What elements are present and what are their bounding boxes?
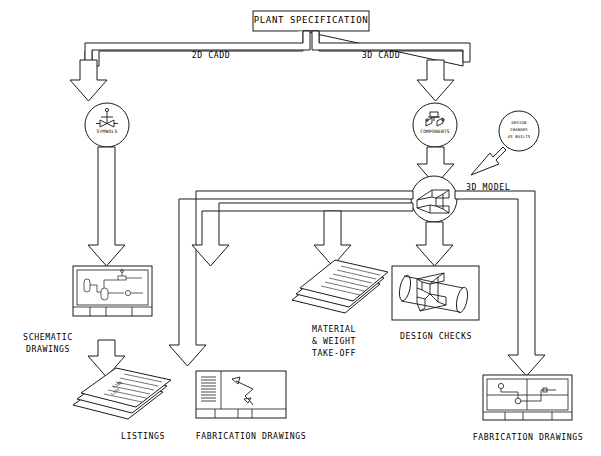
branch-label-3d: 3D CADD: [362, 50, 401, 61]
diagram-canvas: [0, 0, 601, 456]
branch-label-2d: 2D CADD: [192, 50, 231, 61]
output-label-fabrication-right: FABRICATION DRAWINGS: [473, 432, 584, 443]
cadd-workflow-diagram: PLANT SPECIFICATION 2D CADD 3D CADD SYMB…: [0, 0, 601, 456]
output-label-listings: LISTINGS: [121, 431, 165, 442]
output-label-takeoff-l1: MATERIAL: [312, 324, 356, 335]
fabrication-left-sheet: [196, 371, 286, 418]
output-label-fabrication-left: FABRICATION DRAWINGS: [196, 431, 307, 442]
output-label-takeoff-l3: TAKE-OFF: [312, 348, 356, 359]
listings-sheet-stack: [73, 368, 171, 419]
components-circle: [413, 103, 457, 147]
bus-branch-takeoff: [192, 203, 413, 266]
page-title: PLANT SPECIFICATION: [254, 15, 368, 27]
design-changes-line1: DESIGN: [512, 121, 527, 126]
node-label-components: COMPONENTS: [420, 129, 450, 135]
arrow-to-symbols: [70, 60, 107, 101]
symbols-circle: [85, 103, 129, 147]
design-changes-line2: CHANGES: [510, 128, 527, 133]
output-label-schematic-l2: DRAWINGS: [26, 344, 70, 355]
node-label-3d-model: 3D MODEL: [466, 182, 510, 193]
design-changes-line3: AS BUILTS: [508, 135, 530, 140]
arrow-to-design-checks: [416, 222, 453, 266]
output-label-design-checks: DESIGN CHECKS: [400, 331, 472, 342]
arrow-to-takeoff: [314, 211, 351, 266]
arrow-design-changes-to-model: [471, 147, 506, 175]
output-label-schematic-l1: SCHEMATIC: [23, 332, 73, 343]
design-checks-box: [392, 266, 479, 320]
schematic-drawing-sheet: [73, 266, 152, 316]
fabrication-right-sheet: [483, 375, 572, 420]
node-label-symbols: SYMBOLS: [97, 129, 118, 135]
arrow-to-components: [417, 60, 454, 101]
takeoff-sheet-stack: [292, 260, 388, 313]
output-label-takeoff-l2: & WEIGHT: [312, 336, 356, 347]
arrow-symbols-to-schematic: [88, 147, 125, 266]
